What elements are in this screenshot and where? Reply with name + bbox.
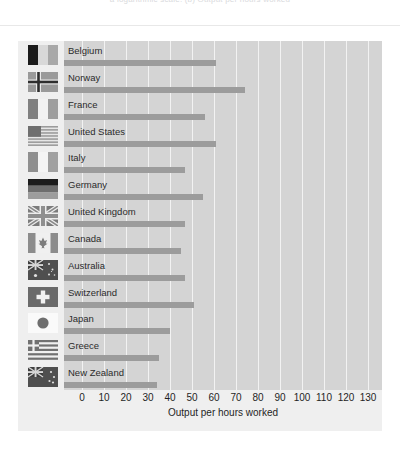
flag-australia-icon: [28, 260, 58, 280]
bar: [64, 141, 216, 147]
bar-row: United States: [64, 122, 382, 149]
x-tick-label: 50: [186, 392, 197, 403]
bar-category-label: United States: [68, 126, 125, 138]
flag-germany-icon: [28, 179, 58, 199]
bar-category-label: Italy: [68, 152, 85, 164]
flag-france-icon: [28, 99, 58, 119]
bar: [64, 194, 203, 200]
bar-category-label: Switzerland: [68, 287, 117, 299]
flag-switzerland-icon: [28, 287, 58, 307]
flag-new-zealand-icon: [28, 367, 58, 387]
x-tick-label: 110: [316, 392, 332, 403]
bar: [64, 167, 185, 173]
bar-row: Norway: [64, 68, 382, 95]
x-tick-label: 100: [294, 392, 311, 403]
bar-category-label: New Zealand: [68, 367, 124, 379]
bar-category-label: Japan: [68, 313, 94, 325]
flag-column: [18, 41, 63, 431]
bar-category-label: Norway: [68, 72, 100, 84]
bar-row: United Kingdom: [64, 202, 382, 229]
x-tick-label: 10: [98, 392, 109, 403]
bar: [64, 275, 185, 281]
bar-category-label: Australia: [68, 260, 105, 272]
x-tick-label: 60: [208, 392, 219, 403]
bar: [64, 355, 159, 361]
x-tick-label: 120: [338, 392, 355, 403]
x-tick-label: 70: [230, 392, 241, 403]
plot-area: BelgiumNorwayFranceUnited StatesItalyGer…: [64, 41, 382, 390]
bar-category-label: Greece: [68, 340, 99, 352]
x-tick-label: 30: [142, 392, 153, 403]
x-tick-label: 130: [360, 392, 377, 403]
bar-row: Australia: [64, 256, 382, 283]
bar: [64, 114, 205, 120]
flag-united-states-icon: [28, 126, 58, 146]
bar: [64, 248, 181, 254]
bar-row: France: [64, 95, 382, 122]
top-caption-text: a logarithmic scale. (b) Output per hour…: [0, 0, 400, 4]
bar-category-label: Canada: [68, 233, 101, 245]
flag-united-kingdom-icon: [28, 206, 58, 226]
header-divider: [0, 25, 400, 26]
bar-row: Belgium: [64, 41, 382, 68]
flag-canada-icon: [28, 233, 58, 253]
flag-belgium-icon: [28, 45, 58, 65]
flag-greece-icon: [28, 340, 58, 360]
bar: [64, 60, 216, 66]
x-tick-label: 90: [274, 392, 285, 403]
top-caption: a logarithmic scale. (b) Output per hour…: [0, 0, 400, 7]
bar-category-label: United Kingdom: [68, 206, 136, 218]
bar-category-label: Belgium: [68, 45, 102, 57]
x-tick-label: 20: [120, 392, 131, 403]
bar: [64, 221, 185, 227]
bar: [64, 382, 157, 388]
bar-row: Japan: [64, 309, 382, 336]
bar: [64, 87, 245, 93]
bar-row: Canada: [64, 229, 382, 256]
bar: [64, 302, 194, 308]
x-tick-label: 0: [79, 392, 85, 403]
bar-row: New Zealand: [64, 363, 382, 390]
flag-japan-icon: [28, 313, 58, 333]
x-axis-title: Output per hours worked: [64, 407, 382, 418]
flag-italy-icon: [28, 152, 58, 172]
flag-norway-icon: [28, 72, 58, 92]
x-tick-label: 40: [164, 392, 175, 403]
bar-category-label: Germany: [68, 179, 107, 191]
bar: [64, 328, 170, 334]
bar-row: Germany: [64, 175, 382, 202]
chart-panel: BelgiumNorwayFranceUnited StatesItalyGer…: [18, 41, 382, 431]
x-tick-label: 80: [252, 392, 263, 403]
x-axis: 0102030405060708090100110120130 Output p…: [64, 390, 382, 431]
bar-row: Switzerland: [64, 283, 382, 310]
bar-category-label: France: [68, 99, 98, 111]
bar-row: Italy: [64, 148, 382, 175]
bar-row: Greece: [64, 336, 382, 363]
